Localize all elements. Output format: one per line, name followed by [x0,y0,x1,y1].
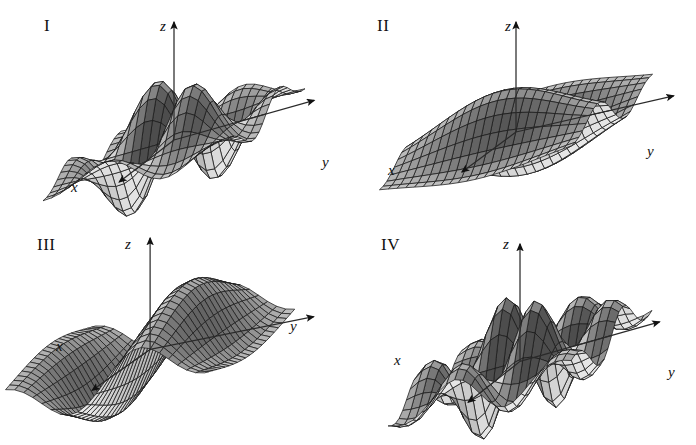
surface-mesh-I [0,0,348,222]
x-axis-label-II: x [388,162,395,179]
panel-numeral-I: I [44,16,50,36]
surface-panel-III: III z y x [0,222,348,444]
x-axis-label-IV: x [394,352,401,369]
surface-panel-II: II z y x [348,0,696,222]
y-axis-label-III: y [290,318,297,335]
panel-numeral-III: III [37,235,55,255]
panel-numeral-II: II [377,16,389,36]
surface-panel-I: I z y x [0,0,348,222]
x-axis-label-I: x [71,179,78,196]
y-axis-label-I: y [322,154,329,171]
z-axis-label-IV: z [503,236,509,253]
x-axis-label-III: x [56,338,63,355]
z-axis-label-II: z [505,18,511,35]
surface-panel-IV: IV z y x [348,222,696,444]
y-axis-label-II: y [647,143,654,160]
y-axis-label-IV: y [668,364,675,381]
panel-numeral-IV: IV [381,235,400,255]
z-axis-label-I: z [160,18,166,35]
surface-mesh-II [348,0,696,222]
surface-mesh-IV [348,222,696,444]
surface-plot-figure: I z y x II z y x III z y x IV z y x [0,0,696,445]
z-axis-label-III: z [125,236,131,253]
